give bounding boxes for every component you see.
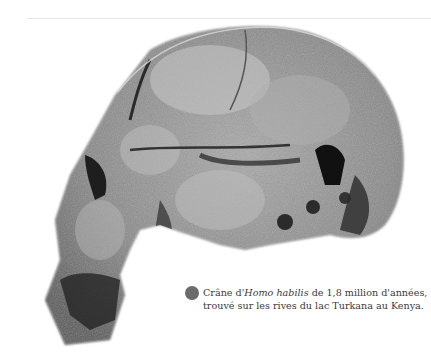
caption-species: Homo habilis bbox=[244, 287, 308, 298]
caption-text-part1: Crâne d' bbox=[203, 287, 244, 298]
caption-text-part2: de 1,8 million d'années, bbox=[309, 287, 428, 298]
caption-bullet-icon bbox=[185, 286, 199, 300]
caption-text-line2: trouvé sur les rives du lac Turkana au K… bbox=[203, 300, 424, 311]
